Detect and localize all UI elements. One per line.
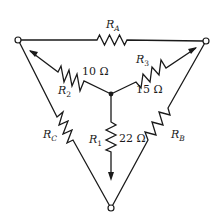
label-r3: R3 [135, 53, 149, 68]
terminal-bottom [108, 205, 114, 211]
terminal-right [203, 38, 209, 44]
label-rc: RC [42, 128, 57, 143]
center-node [109, 92, 114, 97]
terminal-left [15, 37, 21, 43]
label-r2: R2 [57, 84, 71, 99]
label-rb: RB [170, 128, 185, 143]
label-r1: R1 [88, 133, 102, 148]
r1-arrow-icon [108, 172, 114, 181]
resistor-r1-branch [106, 94, 116, 181]
value-r2: 10 Ω [82, 65, 109, 78]
circuit-diagram: RA R2 10 Ω R3 15 Ω R1 22 Ω RC RB [0, 0, 218, 224]
resistor-ra-branch [21, 35, 203, 45]
value-r1: 22 Ω [119, 132, 146, 145]
value-r3: 15 Ω [136, 83, 163, 96]
label-ra: RA [105, 18, 120, 33]
resistor-rb-branch [113, 44, 205, 206]
